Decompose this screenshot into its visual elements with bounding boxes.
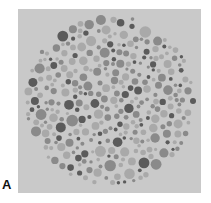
plate-dot: [104, 67, 108, 71]
plate-dot: [51, 88, 57, 94]
plate-dot: [184, 87, 191, 94]
plate-dot: [111, 77, 118, 84]
plate-dot: [151, 104, 155, 108]
plate-dot: [27, 117, 30, 120]
plate-dot: [127, 41, 134, 48]
plate-dot: [42, 130, 50, 138]
plate-dot: [54, 141, 58, 145]
plate-dot: [97, 45, 101, 49]
plate-dot: [73, 69, 77, 73]
plate-dot: [128, 158, 136, 166]
plate-dot: [162, 45, 166, 49]
plate-dot: [140, 150, 146, 156]
plate-dot: [107, 154, 110, 157]
plate-dot: [73, 87, 78, 92]
plate-dot: [160, 99, 166, 105]
plate-dot: [135, 46, 138, 49]
plate-dot: [31, 97, 39, 105]
plate-dot: [105, 73, 109, 77]
plate-dot: [112, 69, 119, 76]
plate-dot: [113, 137, 123, 147]
plate-dot: [121, 157, 125, 161]
plate-dot: [137, 144, 141, 148]
plate-dot: [163, 38, 167, 42]
plate-dot: [123, 123, 129, 129]
plate-dot: [180, 55, 183, 58]
plate-dot: [96, 15, 106, 25]
plate-dot: [39, 59, 43, 63]
plate-dot: [143, 172, 148, 177]
plate-dot: [134, 87, 142, 95]
plate-dot: [172, 56, 177, 61]
plate-dot: [122, 85, 126, 89]
plate-dot: [182, 59, 186, 63]
plate-dot: [61, 43, 65, 47]
plate-dot: [44, 101, 47, 104]
plate-dot: [163, 85, 173, 95]
plate-dot: [44, 86, 49, 91]
plate-dot: [61, 84, 65, 88]
plate-dot: [28, 78, 37, 87]
panel-label: A: [2, 178, 11, 191]
plate-dot: [78, 21, 84, 27]
plate-dot: [64, 100, 74, 110]
plate-dot: [154, 148, 157, 151]
plate-dot: [183, 131, 188, 136]
plate-dot: [33, 119, 39, 125]
plate-dot: [123, 51, 129, 57]
plate-dot: [182, 76, 188, 82]
plate-dot: [116, 60, 124, 68]
plate-dot: [104, 176, 108, 180]
plate-dot: [108, 34, 112, 38]
plate-dot: [119, 133, 123, 137]
plate-dot: [139, 158, 150, 169]
plate-dot: [138, 176, 143, 181]
plate-dot: [102, 25, 111, 34]
plate-dot: [165, 51, 169, 55]
plate-dot: [160, 110, 167, 117]
plate-dot: [67, 164, 74, 171]
plate-dot: [130, 69, 135, 74]
plate-dot: [123, 136, 127, 140]
plate-dot: [119, 80, 124, 85]
plate-dot: [69, 25, 77, 33]
plate-dot: [173, 93, 178, 98]
plate-dot: [123, 180, 126, 183]
plate-dot: [83, 82, 92, 91]
plate-dot: [45, 52, 49, 56]
plate-dot: [38, 76, 43, 81]
plate-dot: [53, 44, 60, 51]
plate-dot: [77, 137, 81, 141]
plate-dot: [138, 168, 142, 172]
plate-dot: [93, 133, 96, 136]
plate-dot: [49, 146, 53, 150]
plate-dot: [114, 104, 118, 108]
plate-dot: [71, 37, 75, 41]
plate-dot: [44, 145, 49, 150]
plate-dot: [144, 49, 150, 55]
plate-dot: [145, 39, 150, 44]
plate-dot: [43, 58, 46, 61]
plate-dot: [77, 170, 82, 175]
plate-dot: [40, 124, 44, 128]
plate-dot: [99, 165, 103, 169]
plate-dot: [79, 56, 88, 65]
plate-dot: [50, 108, 54, 112]
plate-dot: [79, 116, 86, 123]
plate-dot: [105, 107, 110, 112]
plate-dot: [135, 124, 139, 128]
plate-dot: [103, 129, 108, 134]
plate-dot: [117, 122, 122, 127]
plate-dot: [91, 99, 100, 108]
plate-dot: [151, 159, 162, 170]
plate-dot: [49, 58, 52, 61]
plate-dot: [110, 180, 115, 185]
plate-dot: [146, 116, 150, 120]
plate-dot: [133, 111, 140, 118]
plate-dot: [55, 72, 61, 78]
plate-dot: [155, 106, 161, 112]
plate-dot: [47, 156, 50, 159]
plate-dot: [98, 141, 102, 145]
plate-dot: [133, 138, 139, 144]
plate-dot: [110, 97, 117, 104]
